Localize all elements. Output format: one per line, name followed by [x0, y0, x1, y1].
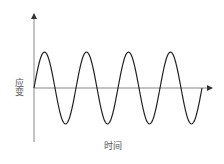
y-axis-label: 应变	[14, 78, 24, 96]
x-axis-label: 时间	[104, 139, 122, 152]
strain-time-chart: 应变 时间	[0, 0, 224, 164]
